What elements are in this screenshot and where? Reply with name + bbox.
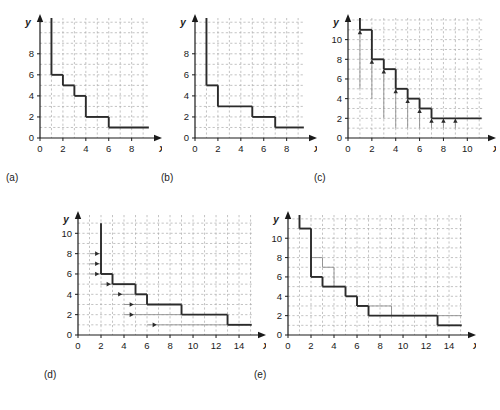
y-tick-label: 10 bbox=[61, 228, 72, 239]
y-tick-label: 4 bbox=[29, 90, 34, 101]
y-tick-label: 8 bbox=[67, 248, 72, 259]
x-axis-arrowhead bbox=[468, 332, 476, 338]
plot-c: 02468100246810xy bbox=[318, 8, 496, 168]
y-tick-label: 4 bbox=[67, 289, 72, 300]
y-tick-label: 8 bbox=[184, 48, 189, 59]
x-tick-label: 4 bbox=[83, 143, 88, 154]
x-tick-label: 0 bbox=[285, 340, 290, 351]
x-tick-label: 6 bbox=[261, 143, 266, 154]
y-axis-arrowhead bbox=[37, 14, 43, 22]
panel-e: 024681012140246810xy bbox=[258, 205, 476, 365]
y-tick-label: 6 bbox=[67, 268, 72, 279]
x-tick-label: 12 bbox=[421, 340, 432, 351]
x-axis-label: x bbox=[313, 143, 317, 154]
flow-arrowhead bbox=[107, 282, 111, 287]
y-tick-label: 10 bbox=[331, 34, 342, 45]
x-axis-label: x bbox=[158, 143, 162, 154]
x-tick-label: 6 bbox=[417, 143, 422, 154]
x-tick-label: 14 bbox=[234, 340, 245, 351]
flow-arrowhead bbox=[130, 312, 134, 317]
panel-b: 0246802468xy bbox=[165, 8, 317, 168]
step-function bbox=[206, 18, 303, 127]
y-tick-label: 6 bbox=[184, 69, 189, 80]
x-tick-label: 14 bbox=[444, 340, 455, 351]
step-function bbox=[51, 18, 148, 127]
y-tick-label: 0 bbox=[67, 329, 72, 340]
flow-arrowhead bbox=[95, 262, 99, 267]
y-axis-arrowhead bbox=[75, 211, 81, 219]
plot-e: 024681012140246810xy bbox=[258, 205, 476, 365]
x-tick-label: 2 bbox=[369, 143, 374, 154]
y-tick-label: 2 bbox=[29, 111, 34, 122]
y-axis-label: y bbox=[332, 17, 339, 28]
x-tick-label: 4 bbox=[393, 143, 398, 154]
flow-arrowhead bbox=[130, 302, 134, 307]
y-tick-label: 10 bbox=[271, 233, 282, 244]
grid-lines bbox=[195, 18, 305, 138]
x-tick-label: 4 bbox=[238, 143, 243, 154]
y-axis-label: y bbox=[272, 214, 279, 225]
x-tick-label: 8 bbox=[441, 143, 446, 154]
x-axis-arrowhead bbox=[488, 135, 496, 141]
panel-caption-b: (b) bbox=[161, 172, 173, 183]
plot-d: 024681012140246810xy bbox=[48, 205, 266, 365]
y-tick-label: 8 bbox=[277, 252, 282, 263]
y-axis-arrowhead bbox=[345, 14, 351, 22]
x-tick-label: 6 bbox=[354, 340, 359, 351]
panel-caption-c: (c) bbox=[314, 172, 326, 183]
y-tick-label: 0 bbox=[337, 132, 342, 143]
y-tick-label: 2 bbox=[277, 310, 282, 321]
y-tick-label: 0 bbox=[184, 132, 189, 143]
y-axis-label: y bbox=[24, 17, 31, 28]
flow-arrowhead bbox=[118, 292, 122, 297]
y-tick-label: 4 bbox=[184, 90, 189, 101]
y-tick-label: 6 bbox=[29, 69, 34, 80]
flow-arrowhead bbox=[153, 323, 157, 328]
x-tick-label: 0 bbox=[37, 143, 42, 154]
x-axis-arrowhead bbox=[309, 135, 317, 141]
panel-caption-e: (e) bbox=[254, 369, 266, 380]
y-tick-label: 2 bbox=[184, 111, 189, 122]
x-tick-label: 2 bbox=[308, 340, 313, 351]
x-axis-arrowhead bbox=[154, 135, 162, 141]
panel-caption-a: (a) bbox=[6, 172, 18, 183]
x-tick-label: 2 bbox=[215, 143, 220, 154]
x-tick-label: 0 bbox=[75, 340, 80, 351]
y-tick-label: 0 bbox=[29, 132, 34, 143]
flow-arrowhead bbox=[95, 251, 99, 256]
x-tick-label: 8 bbox=[377, 340, 382, 351]
x-tick-label: 6 bbox=[144, 340, 149, 351]
x-tick-label: 8 bbox=[284, 143, 289, 154]
x-tick-label: 10 bbox=[398, 340, 409, 351]
x-tick-label: 0 bbox=[345, 143, 350, 154]
x-tick-label: 8 bbox=[167, 340, 172, 351]
x-tick-label: 8 bbox=[129, 143, 134, 154]
plot-a: 0246802468xy bbox=[10, 8, 162, 168]
grid-lines bbox=[40, 18, 150, 138]
x-tick-label: 6 bbox=[106, 143, 111, 154]
x-tick-label: 10 bbox=[188, 340, 199, 351]
x-tick-label: 12 bbox=[211, 340, 222, 351]
y-tick-label: 6 bbox=[277, 271, 282, 282]
x-tick-label: 0 bbox=[192, 143, 197, 154]
x-tick-label: 10 bbox=[462, 143, 473, 154]
y-tick-label: 2 bbox=[337, 113, 342, 124]
x-tick-label: 2 bbox=[60, 143, 65, 154]
panel-c: 02468100246810xy bbox=[318, 8, 496, 168]
y-tick-label: 6 bbox=[337, 73, 342, 84]
x-axis-label: x bbox=[472, 340, 476, 351]
y-axis-label: y bbox=[179, 17, 186, 28]
x-tick-label: 4 bbox=[331, 340, 336, 351]
x-tick-label: 2 bbox=[98, 340, 103, 351]
y-tick-label: 8 bbox=[29, 48, 34, 59]
plot-b: 0246802468xy bbox=[165, 8, 317, 168]
y-tick-label: 8 bbox=[337, 54, 342, 65]
y-tick-label: 2 bbox=[67, 309, 72, 320]
flow-arrowhead bbox=[95, 272, 99, 277]
y-axis-label: y bbox=[62, 214, 69, 225]
panel-a: 0246802468xy bbox=[10, 8, 162, 168]
y-axis-arrowhead bbox=[285, 211, 291, 219]
panel-caption-d: (d) bbox=[44, 369, 56, 380]
y-tick-label: 4 bbox=[337, 93, 342, 104]
x-axis-label: x bbox=[492, 143, 496, 154]
